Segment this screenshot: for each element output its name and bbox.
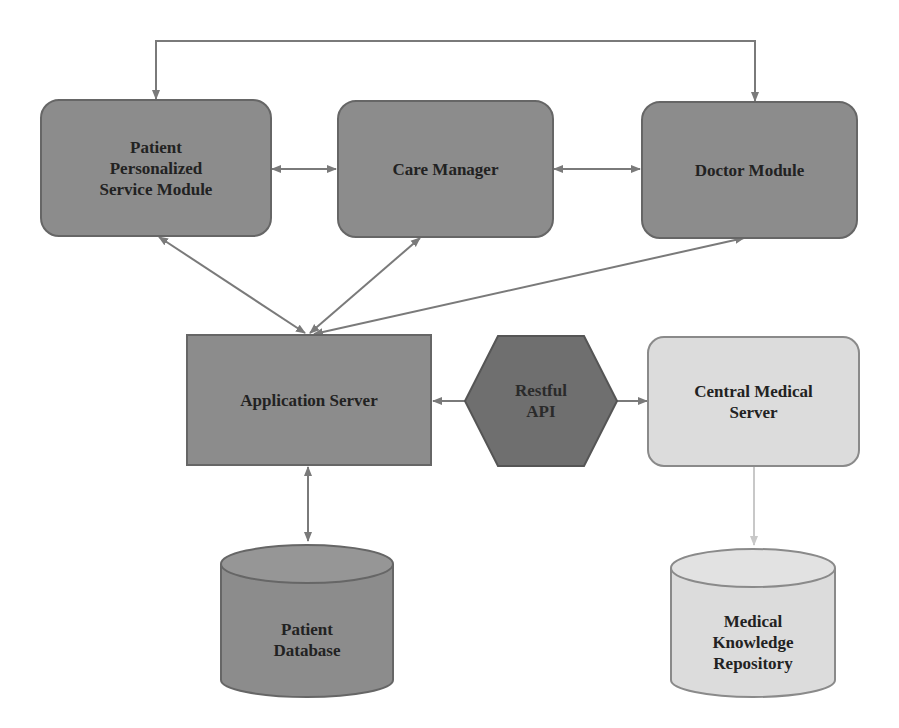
edge-patient-doctor-top <box>156 41 755 101</box>
medical-knowledge-repository-node[interactable] <box>671 549 835 697</box>
edge-patient-appserver <box>159 237 305 333</box>
architecture-diagram <box>0 0 899 728</box>
edge-doctor-appserver <box>314 238 744 334</box>
care-manager-node[interactable] <box>338 101 553 237</box>
edge-care-appserver <box>310 238 420 333</box>
patient-database-node[interactable] <box>221 545 393 697</box>
restful-api-node[interactable] <box>465 336 617 466</box>
central-medical-server-node[interactable] <box>648 337 859 466</box>
patient-module-node[interactable] <box>41 100 271 236</box>
doctor-module-node[interactable] <box>642 102 857 238</box>
application-server-node[interactable] <box>187 335 431 465</box>
